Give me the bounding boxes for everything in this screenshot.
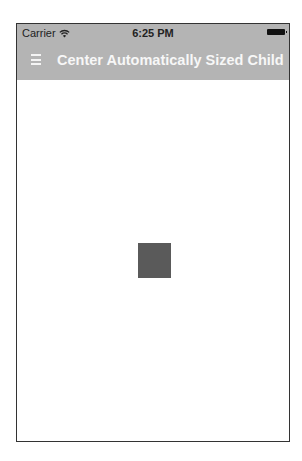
hamburger-menu-icon[interactable] [31, 54, 41, 65]
page-title: Center Automatically Sized Child [57, 52, 289, 68]
header: Carrier 6:25 PM Center Automatically Siz… [17, 24, 289, 80]
status-bar: Carrier 6:25 PM [17, 24, 289, 42]
content-area [17, 80, 289, 441]
status-time: 6:25 PM [17, 27, 289, 39]
navigation-bar: Center Automatically Sized Child [17, 44, 289, 78]
centered-child-box [138, 243, 171, 278]
battery-icon [267, 29, 285, 35]
phone-screen: Carrier 6:25 PM Center Automatically Siz… [16, 23, 290, 442]
